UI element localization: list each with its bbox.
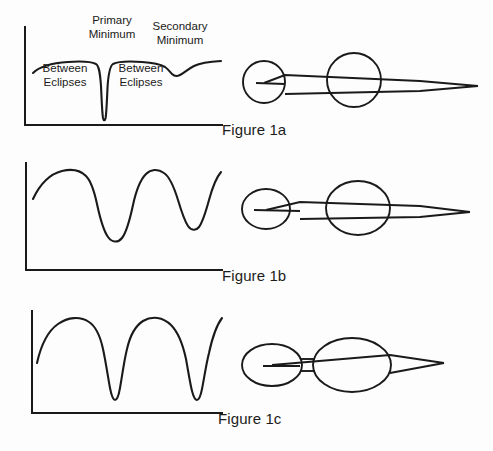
figure-1b-block: Figure 1b bbox=[0, 150, 493, 295]
figure-1a-secondary-minimum-label-line1: Secondary bbox=[153, 20, 208, 32]
figure-1a-primary-star bbox=[327, 53, 381, 107]
figure-1a-orbit-axis bbox=[256, 83, 285, 84]
figure-1c-light-curve bbox=[37, 318, 222, 400]
figure-1a-block: Primary Minimum Secondary Minimum Betwee… bbox=[0, 0, 493, 150]
figure-1b-label: Figure 1b bbox=[222, 267, 286, 284]
figure-1c-svg bbox=[0, 295, 493, 451]
figure-1b-shadow-cone-lower bbox=[300, 212, 470, 219]
figure-1a-label: Figure 1a bbox=[222, 121, 286, 138]
figure-1b-primary-star bbox=[326, 181, 390, 235]
figure-1a-shadow-cone-lower bbox=[285, 86, 478, 94]
figure-1c-primary-star bbox=[313, 338, 391, 392]
figure-1a-between-eclipses-right-line1: Between bbox=[119, 62, 164, 74]
figure-1c-star-diagram bbox=[242, 338, 444, 392]
figure-1a-between-eclipses-left-line2: Eclipses bbox=[44, 76, 87, 88]
figure-1c-shadow-cone-upper bbox=[272, 355, 444, 365]
figure-page: Primary Minimum Secondary Minimum Betwee… bbox=[0, 0, 493, 451]
figure-1a-primary-minimum-label-line1: Primary bbox=[92, 14, 132, 26]
figure-1b-orbit-axis bbox=[254, 210, 300, 211]
figure-1b-light-curve bbox=[33, 170, 221, 242]
figure-1a-secondary-minimum-label-line2: Minimum bbox=[157, 34, 204, 46]
figure-1b-star-diagram bbox=[242, 181, 470, 235]
figure-1c-label: Figure 1c bbox=[218, 410, 281, 427]
figure-1a-star-diagram bbox=[243, 53, 478, 107]
figure-1a-primary-minimum-label-line2: Minimum bbox=[89, 28, 136, 40]
figure-1b-secondary-star bbox=[242, 189, 290, 229]
figure-1a-shadow-cone-upper bbox=[264, 75, 478, 86]
figure-1a-between-eclipses-left-line1: Between bbox=[43, 62, 88, 74]
figure-1c-block: Figure 1c bbox=[0, 295, 493, 451]
figure-1b-axes bbox=[26, 163, 222, 270]
figure-1a-between-eclipses-right-line2: Eclipses bbox=[120, 76, 163, 88]
figure-1c-shadow-cone-lower bbox=[390, 363, 444, 373]
